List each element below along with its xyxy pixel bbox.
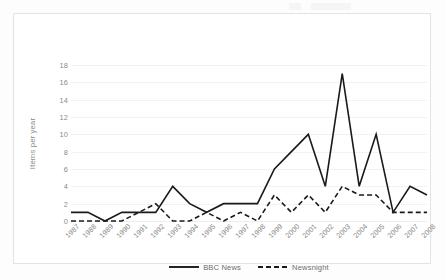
y-tick-label-6: 6 [64, 165, 68, 174]
x-tick-label-2004: 2004 [352, 222, 370, 240]
plot-area [71, 65, 427, 221]
x-tick-label-2008: 2008 [419, 222, 437, 240]
x-tick-label-1990: 1990 [114, 222, 132, 240]
x-tick-label-1988: 1988 [80, 222, 98, 240]
x-tick-label-1997: 1997 [233, 222, 251, 240]
scan-artifact [311, 3, 351, 10]
x-axis-ticks: 1987198819891990199119921993199419951996… [71, 222, 427, 256]
legend-label: Newsnight [292, 263, 329, 272]
figure-container: Items per year 024681012141618 198719881… [0, 0, 445, 280]
y-tick-label-18: 18 [59, 61, 68, 70]
x-tick-label-2002: 2002 [318, 222, 336, 240]
series-layer [71, 65, 427, 221]
x-tick-label-1998: 1998 [250, 222, 268, 240]
x-tick-label-2005: 2005 [369, 222, 387, 240]
chart-frame: Items per year 024681012141618 198719881… [13, 13, 431, 264]
y-tick-label-14: 14 [59, 95, 68, 104]
x-tick-label-1992: 1992 [148, 222, 166, 240]
scan-artifact [289, 3, 301, 10]
y-tick-label-0: 0 [64, 217, 68, 226]
x-tick-label-1989: 1989 [97, 222, 115, 240]
y-tick-label-10: 10 [59, 130, 68, 139]
x-tick-label-2000: 2000 [284, 222, 302, 240]
y-axis-title: Items per year [27, 65, 39, 221]
y-tick-label-2: 2 [64, 199, 68, 208]
x-tick-label-1995: 1995 [199, 222, 217, 240]
y-tick-label-8: 8 [64, 147, 68, 156]
x-tick-label-1994: 1994 [182, 222, 200, 240]
x-tick-label-1999: 1999 [267, 222, 285, 240]
legend-item-bbc-news[interactable]: BBC News [169, 263, 241, 272]
y-tick-label-4: 4 [64, 182, 68, 191]
y-axis-ticks: 024681012141618 [44, 65, 68, 221]
x-tick-label-2007: 2007 [402, 222, 420, 240]
x-tick-label-1993: 1993 [165, 222, 183, 240]
legend-swatch-dashed-line-icon [258, 264, 288, 270]
x-tick-label-2006: 2006 [386, 222, 404, 240]
x-tick-label-2001: 2001 [301, 222, 319, 240]
y-tick-label-16: 16 [59, 78, 68, 87]
legend-label: BBC News [203, 263, 241, 272]
legend-item-newsnight[interactable]: Newsnight [258, 263, 329, 272]
y-tick-label-12: 12 [59, 113, 68, 122]
x-tick-label-1996: 1996 [216, 222, 234, 240]
x-tick-label-2003: 2003 [335, 222, 353, 240]
legend-swatch-solid-line-icon [169, 264, 199, 270]
y-axis-title-label: Items per year [29, 117, 38, 168]
chart-legend: BBC NewsNewsnight [71, 260, 427, 274]
x-tick-label-1991: 1991 [131, 222, 149, 240]
series-line-bbc-news [71, 74, 427, 221]
